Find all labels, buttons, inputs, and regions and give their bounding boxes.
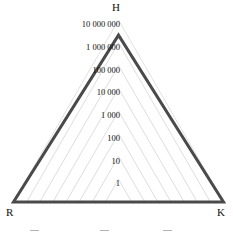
legend-swatch [163, 230, 172, 232]
legend-swatch [100, 230, 109, 232]
axis-label-h: H [112, 2, 120, 13]
tick-label: 1 000 [101, 111, 120, 120]
tick-label: 10 000 000 [82, 20, 120, 29]
tick-label: 1 000 000 [86, 43, 120, 52]
legend-swatch [30, 230, 39, 232]
legend-item[interactable] [163, 227, 174, 233]
tick-label: 100 [107, 134, 120, 143]
tick-label: 1 [116, 179, 120, 188]
axis-label-k: K [217, 207, 225, 218]
radar-chart: H R K 10 000 0001 000 000100 00010 0001 … [0, 0, 233, 233]
tick-label: 10 [112, 156, 121, 165]
legend-item[interactable] [100, 227, 111, 233]
chart-legend [0, 224, 233, 233]
tick-label: 100 000 [92, 65, 120, 74]
legend-item[interactable] [30, 227, 41, 233]
tick-label: 10 000 [97, 88, 120, 97]
axis-label-r: R [6, 207, 13, 218]
grid-ring [79, 134, 158, 202]
